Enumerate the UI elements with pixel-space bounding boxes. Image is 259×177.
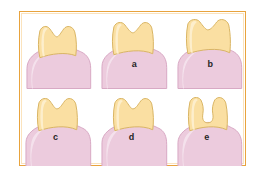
tooth-diagram-d: d	[95, 89, 171, 167]
panel-label: c	[53, 133, 58, 142]
panel-label: b	[207, 60, 213, 69]
tooth-diagram-unlabeled	[19, 11, 95, 89]
tooth-illustration-c	[19, 89, 95, 167]
tooth-illustration-b	[170, 11, 246, 89]
tooth-diagram-c: c	[19, 89, 95, 167]
gingiva-shape	[26, 122, 91, 166]
tooth-illustration-d	[95, 89, 171, 167]
tooth-illustration-unlabeled	[19, 11, 95, 89]
figure-root: a b c	[0, 0, 259, 177]
tooth-illustration-a	[95, 11, 171, 89]
tooth-panel-grid: a b c	[19, 11, 246, 166]
tooth-diagram-a: a	[95, 11, 171, 89]
panel-label: e	[204, 133, 209, 142]
gingiva-shape	[102, 122, 167, 166]
tooth-diagram-b: b	[170, 11, 246, 89]
tooth-illustration-e	[170, 89, 246, 167]
gingiva-shape	[178, 122, 242, 166]
panel-label: a	[132, 60, 137, 69]
tooth-diagram-e: e	[170, 89, 246, 167]
panel-label: d	[129, 133, 135, 142]
